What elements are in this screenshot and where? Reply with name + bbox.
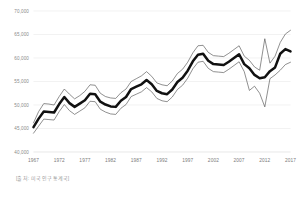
x-tick-label: 2007: [234, 158, 245, 163]
x-tick-label: 1967: [28, 158, 39, 163]
x-tick-label: 2002: [208, 158, 219, 163]
x-tick-label: 1992: [156, 158, 167, 163]
x-tick-label: 1977: [79, 158, 90, 163]
y-tick-label: 55,000: [14, 79, 29, 84]
chart-container: 70,00065,00060,00055,00050,00045,00040,0…: [0, 0, 297, 197]
y-tick-label: 65,000: [14, 32, 29, 37]
x-tick-label: 2012: [259, 158, 270, 163]
line-chart-svg: 70,00065,00060,00055,00050,00045,00040,0…: [0, 0, 297, 197]
x-axis-tick-labels: 1967197219771982198719921997200220072012…: [28, 158, 296, 163]
y-axis-tick-labels: 70,00065,00060,00055,00050,00045,00040,0…: [14, 9, 29, 155]
source-caption: [출처: 미국 인구통계국]: [16, 174, 69, 181]
x-tick-label: 2017: [285, 158, 296, 163]
y-tick-label: 60,000: [14, 56, 29, 61]
gridlines-group: [34, 11, 291, 152]
x-tick-label: 1982: [105, 158, 116, 163]
y-tick-label: 50,000: [14, 103, 29, 108]
x-tick-label: 1987: [131, 158, 142, 163]
y-tick-label: 45,000: [14, 126, 29, 131]
y-tick-label: 40,000: [14, 150, 29, 155]
x-tick-label: 1997: [182, 158, 193, 163]
series-line-thin: [34, 30, 291, 123]
y-tick-label: 70,000: [14, 9, 29, 14]
x-tick-label: 1972: [54, 158, 65, 163]
